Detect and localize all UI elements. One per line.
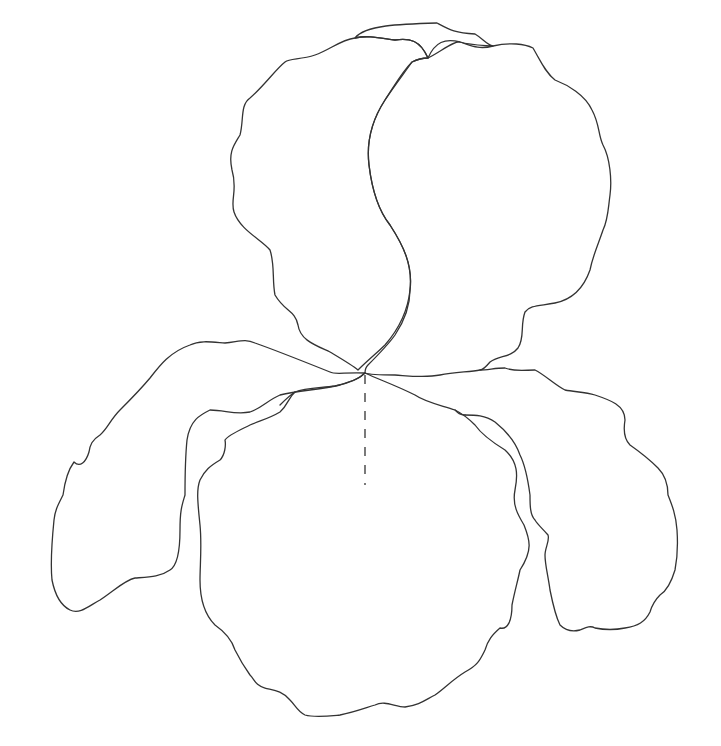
iris-drawing bbox=[0, 0, 721, 746]
